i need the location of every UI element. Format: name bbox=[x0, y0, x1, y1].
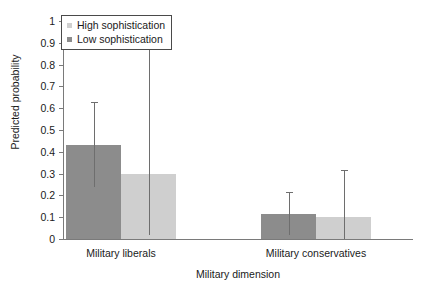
error-bar-cap bbox=[286, 192, 293, 193]
y-tick-label: 0.8 bbox=[0, 60, 55, 70]
y-tick-label: 0.3 bbox=[0, 169, 55, 179]
legend-label: Low sophistication bbox=[77, 34, 163, 45]
x-axis-title: Military dimension bbox=[63, 268, 413, 280]
error-bar bbox=[344, 170, 345, 239]
legend-item: High sophistication bbox=[65, 18, 165, 32]
legend-swatch-icon bbox=[67, 37, 72, 42]
y-tick-label: 0.6 bbox=[0, 103, 55, 113]
y-tick-label: 0.5 bbox=[0, 125, 55, 135]
legend-label: High sophistication bbox=[77, 20, 165, 31]
y-tick-label: 0.7 bbox=[0, 81, 55, 91]
y-tick-label: 0.9 bbox=[0, 38, 55, 48]
y-tick-label: 0.4 bbox=[0, 147, 55, 157]
y-tick-label: 1 bbox=[0, 16, 55, 26]
legend-swatch-icon bbox=[67, 23, 72, 28]
error-bar bbox=[94, 102, 95, 187]
error-bar bbox=[149, 43, 150, 235]
y-tick-label: 0 bbox=[0, 234, 55, 244]
error-bar-cap bbox=[341, 170, 348, 171]
plot-area bbox=[63, 21, 413, 239]
x-category-label: Military conservatives bbox=[241, 247, 391, 259]
error-bar bbox=[289, 192, 290, 235]
y-tick-mark bbox=[59, 239, 63, 240]
y-tick-label: 0.2 bbox=[0, 190, 55, 200]
error-bar-cap bbox=[91, 102, 98, 103]
legend-item: Low sophistication bbox=[65, 32, 165, 46]
bar-chart-figure: Predicted probability 00.10.20.30.40.50.… bbox=[0, 0, 430, 295]
y-tick-label: 0.1 bbox=[0, 212, 55, 222]
x-category-label: Military liberals bbox=[46, 247, 196, 259]
x-axis-line bbox=[63, 239, 413, 240]
legend: High sophisticationLow sophistication bbox=[61, 15, 172, 50]
